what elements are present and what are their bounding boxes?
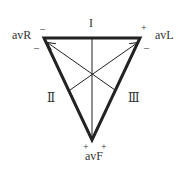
lead-iii-label: Ⅲ [128,92,140,104]
sign-avl-side: – [144,43,149,53]
avr-label: avR [12,29,31,41]
sign-avf-right: + [101,142,107,152]
sign-avr-top: – [40,24,45,34]
sign-avl-top: + [141,23,147,33]
avl-label: avL [155,29,174,41]
sign-avr-side: – [34,43,39,53]
lead-i-label: I [89,17,93,29]
lead-ii-label: Ⅱ [47,92,55,104]
sign-avf-left: + [83,142,89,152]
